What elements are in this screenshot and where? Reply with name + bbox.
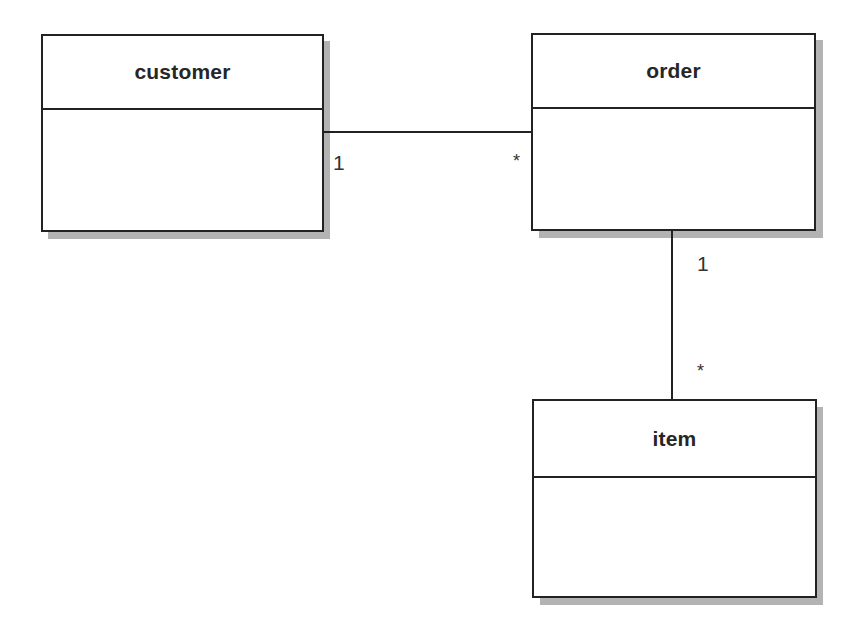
class-attributes-item	[534, 478, 815, 596]
multiplicity-item-end: *	[697, 362, 704, 380]
class-name-item: item	[653, 427, 697, 451]
class-header-order: order	[533, 35, 814, 109]
class-box-order[interactable]: order	[531, 33, 816, 231]
association-order-item[interactable]	[671, 231, 673, 400]
class-header-item: item	[534, 401, 815, 478]
multiplicity-order-end-2: 1	[697, 253, 709, 274]
class-name-order: order	[646, 59, 701, 83]
multiplicity-order-end: *	[513, 152, 520, 170]
class-attributes-customer	[43, 110, 322, 230]
association-customer-order[interactable]	[324, 131, 532, 133]
class-name-customer: customer	[134, 60, 230, 84]
class-diagram-canvas: customer order item 1 * 1 *	[0, 0, 866, 629]
multiplicity-customer-end: 1	[333, 152, 345, 173]
class-attributes-order	[533, 109, 814, 229]
class-box-customer[interactable]: customer	[41, 34, 324, 232]
class-box-item[interactable]: item	[532, 399, 817, 598]
class-header-customer: customer	[43, 36, 322, 110]
